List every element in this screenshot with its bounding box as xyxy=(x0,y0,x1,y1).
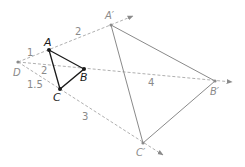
dilation-diagram: D A B C A′ B′ C′ 1 2 2 1.5 3 4 xyxy=(0,0,245,167)
label-a: A xyxy=(43,36,52,49)
label-a-prime: A′ xyxy=(104,10,115,21)
label-b-prime: B′ xyxy=(210,86,220,97)
ray-d-c xyxy=(18,62,163,155)
image-triangle xyxy=(111,25,215,143)
point-b-prime xyxy=(213,79,216,82)
point-d xyxy=(16,60,19,63)
label-c: C xyxy=(53,91,61,104)
length-label-db: 2 xyxy=(41,65,47,76)
length-label-dc: 1.5 xyxy=(27,79,43,90)
point-a-prime xyxy=(109,23,112,26)
ray-d-b xyxy=(18,62,232,82)
length-label-bb-prime: 4 xyxy=(148,77,154,88)
label-d: D xyxy=(13,67,21,78)
original-triangle xyxy=(49,50,84,89)
length-label-aa-prime: 2 xyxy=(75,26,81,37)
ray-d-a xyxy=(18,16,133,62)
length-label-cc-prime: 3 xyxy=(82,111,88,122)
label-c-prime: C′ xyxy=(136,147,146,158)
point-c-prime xyxy=(141,141,144,144)
label-b: B xyxy=(80,71,88,84)
length-label-da: 1 xyxy=(27,47,33,58)
